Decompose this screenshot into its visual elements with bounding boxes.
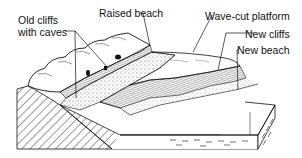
label-wave-cut-platform: Wave-cut platform bbox=[205, 10, 290, 22]
label-old-cliffs: Old cliffs with caves bbox=[18, 14, 67, 38]
right-section bbox=[258, 105, 275, 149]
label-old-cliffs-line2: with caves bbox=[18, 26, 67, 38]
sea-section bbox=[112, 135, 258, 149]
label-old-cliffs-line1: Old cliffs bbox=[18, 14, 67, 26]
cave-icon bbox=[86, 70, 90, 76]
label-new-beach: New beach bbox=[237, 44, 290, 56]
cave-icon bbox=[115, 55, 121, 60]
label-raised-beach: Raised beach bbox=[99, 7, 163, 19]
label-new-cliffs: New cliffs bbox=[245, 28, 290, 40]
